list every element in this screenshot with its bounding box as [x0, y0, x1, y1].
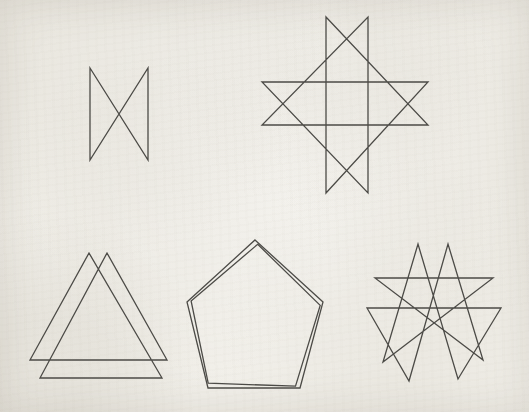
crossed-rectangle-figure [90, 68, 148, 160]
geometric-figures-canvas [0, 0, 529, 412]
overlapping-triangles-figure-outline-1 [30, 253, 167, 378]
crossed-rectangle-figure-outline-1 [90, 68, 148, 160]
double-pentagram-star-figure [367, 244, 501, 381]
double-pentagram-star-figure-outline-1 [367, 244, 501, 381]
scanned-book-page [0, 0, 529, 412]
octagram-star-figure-outline-1 [262, 17, 428, 193]
double-outline-pentagon-figure-outline-1 [187, 240, 323, 388]
octagram-star-figure [262, 17, 428, 193]
double-outline-pentagon-figure [187, 240, 323, 388]
double-outline-pentagon-figure-outline-2 [191, 244, 320, 386]
overlapping-triangles-figure [30, 253, 167, 378]
